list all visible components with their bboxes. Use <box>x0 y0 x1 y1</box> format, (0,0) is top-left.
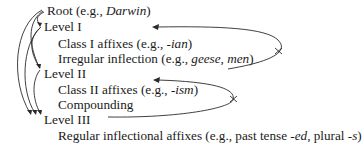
line-compounding: Compounding <box>58 97 133 112</box>
example-text: geese, men <box>191 51 249 66</box>
text: Class II affixes (e.g., <box>58 82 171 97</box>
arrowhead-icon <box>32 110 37 115</box>
level-label: Level II <box>44 66 86 81</box>
line-root: Root (e.g., Darwin) <box>47 3 151 18</box>
text: ) <box>357 128 361 143</box>
text: , plural <box>307 128 348 143</box>
text: Root (e.g., <box>47 3 106 18</box>
example-text: -ed <box>290 128 307 143</box>
arrow-level1-to-level2 <box>32 27 41 68</box>
example-text: -s <box>348 128 358 143</box>
line-class2: Class II affixes (e.g., -ism) <box>58 82 198 97</box>
arrowhead-icon <box>37 22 42 27</box>
level-label: Level III <box>44 112 91 127</box>
line-level2: Level II <box>44 66 86 81</box>
example-text: Darwin <box>106 3 146 18</box>
arrowhead-icon <box>27 110 32 115</box>
text: ) <box>194 82 198 97</box>
example-text: -ian <box>167 36 188 51</box>
line-class1: Class I affixes (e.g., -ian) <box>58 36 192 51</box>
arrow-root-to-level3 <box>18 10 43 113</box>
line-level1: Level I <box>44 19 82 34</box>
level-label: Level I <box>44 19 82 34</box>
line-regular: Regular inflectional affixes (e.g., past… <box>58 128 362 143</box>
text: ) <box>188 36 192 51</box>
text: Compounding <box>58 97 133 112</box>
text: Regular inflectional affixes (e.g., past… <box>58 128 290 143</box>
text: Class I affixes (e.g., <box>58 36 167 51</box>
arrow-level2-to-level3 <box>34 70 40 113</box>
line-level3: Level III <box>44 112 91 127</box>
line-irregular: Irregular inflection (e.g., geese, men) <box>58 51 254 66</box>
arrowhead-icon <box>37 110 42 115</box>
example-text: -ism <box>171 82 194 97</box>
arrowhead-icon <box>152 24 159 30</box>
text: Irregular inflection (e.g., <box>58 51 191 66</box>
text: ) <box>146 3 150 18</box>
text: ) <box>249 51 253 66</box>
